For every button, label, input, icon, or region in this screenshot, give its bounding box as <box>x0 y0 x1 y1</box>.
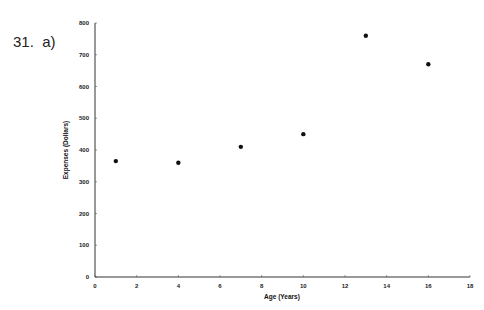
data-point <box>114 159 118 163</box>
data-point <box>239 145 243 149</box>
y-tick-label: 700 <box>79 52 90 58</box>
y-tick-label: 600 <box>79 84 90 90</box>
x-axis-title: Age (Years) <box>264 293 300 301</box>
x-tick-label: 16 <box>425 283 432 289</box>
data-point <box>301 132 305 136</box>
y-tick-label: 200 <box>79 211 90 217</box>
y-tick-label: 300 <box>79 179 90 185</box>
data-point <box>176 161 180 165</box>
x-tick-label: 10 <box>300 283 307 289</box>
x-tick-label: 18 <box>467 283 474 289</box>
x-tick-label: 0 <box>93 283 97 289</box>
data-point <box>426 62 430 66</box>
data-point <box>364 34 368 38</box>
x-axis: 024681012141618 <box>93 275 474 289</box>
y-axis-title: Expenses (Dollars) <box>62 121 70 180</box>
y-tick-label: 0 <box>86 274 90 280</box>
y-tick-label: 400 <box>79 147 90 153</box>
x-tick-label: 8 <box>260 283 264 289</box>
y-axis: 0100200300400500600700800 <box>79 20 97 280</box>
y-tick-label: 800 <box>79 20 90 26</box>
x-tick-label: 6 <box>218 283 222 289</box>
x-tick-label: 12 <box>342 283 349 289</box>
y-tick-label: 100 <box>79 242 90 248</box>
x-tick-label: 4 <box>177 283 181 289</box>
x-tick-label: 14 <box>383 283 390 289</box>
scatter-plot: 0100200300400500600700800 02468101214161… <box>0 0 484 310</box>
x-tick-label: 2 <box>135 283 139 289</box>
y-tick-label: 500 <box>79 115 90 121</box>
data-points <box>114 34 431 165</box>
